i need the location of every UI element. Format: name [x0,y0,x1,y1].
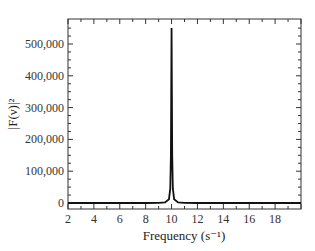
x-tick-label: 8 [143,212,149,226]
y-tick-label: 200,000 [25,132,64,146]
x-tick-label: 14 [217,212,229,226]
x-tick-label: 4 [91,212,97,226]
x-axis-tick-labels: 24681012141618 [65,212,281,226]
x-tick-label: 10 [166,212,178,226]
y-tick-label: 300,000 [25,101,64,115]
plot-frame [68,19,301,209]
x-tick-label: 16 [243,212,255,226]
x-tick-label: 18 [269,212,281,226]
x-axis-title: Frequency (s⁻¹) [143,228,226,243]
spectrum-line [68,28,301,203]
power-spectrum-chart: 24681012141618 0100,000200,000300,000400… [0,0,315,251]
y-tick-label: 500,000 [25,37,64,51]
y-axis-tick-labels: 0100,000200,000300,000400,000500,000 [25,37,64,210]
y-tick-label: 0 [58,196,64,210]
x-axis-ticks [68,19,301,209]
y-tick-label: 100,000 [25,164,64,178]
y-axis-ticks [68,28,301,203]
x-tick-label: 12 [191,212,203,226]
y-axis-title: |F(ν)|² [5,98,20,129]
x-tick-label: 6 [117,212,123,226]
x-tick-label: 2 [65,212,71,226]
y-tick-label: 400,000 [25,69,64,83]
